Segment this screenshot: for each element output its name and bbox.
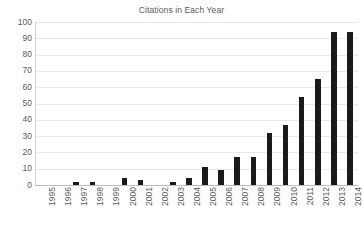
citations-bar-chart: Citations in Each Year 10090807060504030… <box>0 0 363 229</box>
bar-slot <box>229 22 245 185</box>
bar-slot <box>197 22 213 185</box>
x-axis-tick-label: 2013 <box>326 187 342 227</box>
x-axis-tick-label: 1999 <box>100 187 116 227</box>
y-axis-labels: 1009080706050403020100 <box>0 0 32 229</box>
bar[interactable] <box>331 32 337 185</box>
bar-slot <box>149 22 165 185</box>
bar-slot <box>181 22 197 185</box>
bar-slot <box>84 22 100 185</box>
bar[interactable] <box>218 170 224 185</box>
x-axis-tick-label: 2002 <box>149 187 165 227</box>
x-axis-line <box>35 185 358 186</box>
x-axis-tick-text: 2014 <box>354 187 363 206</box>
y-axis-tick-label: 100 <box>2 18 32 27</box>
x-axis-tick-label: 1996 <box>52 187 68 227</box>
x-axis-tick-label: 2008 <box>245 187 261 227</box>
x-axis-tick-label: 1997 <box>68 187 84 227</box>
y-axis-tick-label: 70 <box>2 66 32 75</box>
bar-slot <box>342 22 358 185</box>
bar-slot <box>213 22 229 185</box>
bar-slot <box>294 22 310 185</box>
y-axis-tick-label: 20 <box>2 148 32 157</box>
y-axis-tick-label: 30 <box>2 132 32 141</box>
bar[interactable] <box>234 157 240 185</box>
bar-slot <box>68 22 84 185</box>
x-axis-tick-label: 2005 <box>197 187 213 227</box>
bar-slot <box>52 22 68 185</box>
y-axis-tick-label: 40 <box>2 115 32 124</box>
plot-area <box>36 22 358 185</box>
bar-slot <box>310 22 326 185</box>
bar-slot <box>278 22 294 185</box>
bar-slot <box>165 22 181 185</box>
x-axis-tick-label: 2014 <box>342 187 358 227</box>
x-axis-tick-label: 2007 <box>229 187 245 227</box>
y-axis-tick-label: 0 <box>2 181 32 190</box>
y-axis-tick-label: 60 <box>2 83 32 92</box>
chart-title: Citations in Each Year <box>0 5 363 15</box>
bar[interactable] <box>299 97 305 185</box>
x-axis-tick-label: 2009 <box>261 187 277 227</box>
x-axis-tick-label: 2006 <box>213 187 229 227</box>
y-axis-tick-label: 90 <box>2 34 32 43</box>
x-axis-labels: 1995199619971998199920002001200220032004… <box>36 187 358 229</box>
bar-slot <box>100 22 116 185</box>
bar[interactable] <box>267 133 273 185</box>
y-axis-tick-label: 80 <box>2 50 32 59</box>
x-axis-tick-label: 2004 <box>181 187 197 227</box>
bar-slot <box>117 22 133 185</box>
x-axis-tick-label: 2001 <box>133 187 149 227</box>
x-axis-tick-label: 1995 <box>36 187 52 227</box>
bar[interactable] <box>251 157 257 185</box>
x-axis-tick-label: 2012 <box>310 187 326 227</box>
x-axis-tick-label: 2011 <box>294 187 310 227</box>
bar-slot <box>245 22 261 185</box>
bar-slot <box>133 22 149 185</box>
y-axis-tick-label: 10 <box>2 164 32 173</box>
bar-slot <box>36 22 52 185</box>
x-axis-tick-label: 2000 <box>117 187 133 227</box>
x-axis-tick-label: 2010 <box>278 187 294 227</box>
bar[interactable] <box>347 32 353 185</box>
bar-slot <box>326 22 342 185</box>
bar[interactable] <box>315 79 321 185</box>
x-axis-tick-label: 2003 <box>165 187 181 227</box>
y-axis-tick-label: 50 <box>2 99 32 108</box>
bar[interactable] <box>283 125 289 185</box>
bar-slot <box>261 22 277 185</box>
x-axis-tick-label: 1998 <box>84 187 100 227</box>
bar[interactable] <box>202 167 208 185</box>
